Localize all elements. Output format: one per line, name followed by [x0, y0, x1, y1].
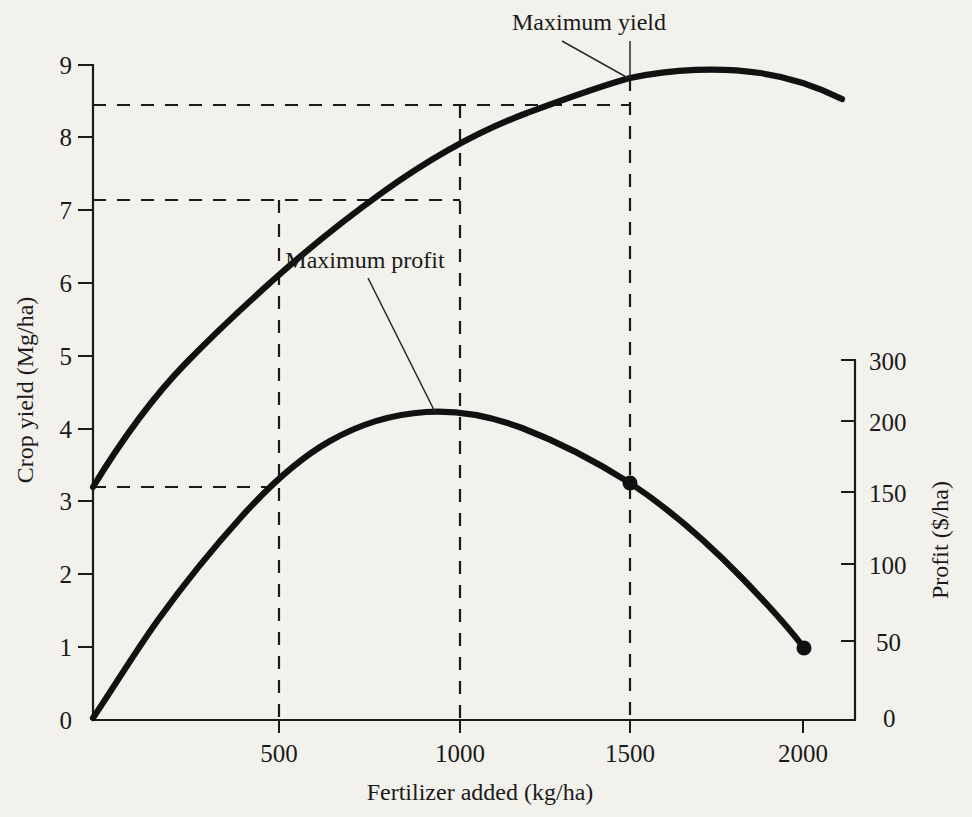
right-tick-label-200: 200 — [869, 409, 907, 436]
right-tick-label-100: 100 — [869, 552, 907, 579]
left-tick-label-5: 5 — [60, 343, 73, 370]
x-tick-label-1000: 1000 — [435, 740, 485, 767]
left-tick-label-1: 1 — [60, 634, 73, 661]
right-tick-label-150: 150 — [869, 480, 907, 507]
annotation-maximum-yield-label: Maximum yield — [512, 9, 666, 35]
left-tick-label-0: 0 — [60, 707, 73, 734]
right-tick-label-0: 0 — [883, 705, 896, 732]
chart-figure: 9 8 7 6 5 4 3 2 1 0 Crop yield (Mg/ha) 5… — [0, 0, 972, 817]
x-tick-label-2000: 2000 — [778, 740, 828, 767]
left-tick-label-2: 2 — [60, 561, 73, 588]
left-tick-label-8: 8 — [60, 124, 73, 151]
profit-marker-1500 — [623, 476, 638, 491]
chart-svg: 9 8 7 6 5 4 3 2 1 0 Crop yield (Mg/ha) 5… — [0, 0, 972, 817]
left-tick-label-6: 6 — [60, 270, 73, 297]
left-tick-label-9: 9 — [60, 52, 73, 79]
left-tick-label-4: 4 — [60, 416, 73, 443]
left-axis-title: Crop yield (Mg/ha) — [12, 297, 38, 484]
left-tick-label-7: 7 — [60, 197, 73, 224]
right-tick-label-50: 50 — [876, 629, 901, 656]
x-axis-title: Fertilizer added (kg/ha) — [367, 779, 594, 805]
x-tick-label-500: 500 — [260, 740, 298, 767]
x-tick-label-1500: 1500 — [605, 740, 655, 767]
annotation-maximum-profit-label: Maximum profit — [285, 247, 445, 273]
profit-marker-2000 — [797, 641, 812, 656]
right-tick-label-300: 300 — [869, 348, 907, 375]
right-axis-title: Profit ($/ha) — [927, 481, 953, 599]
left-tick-label-3: 3 — [60, 488, 73, 515]
